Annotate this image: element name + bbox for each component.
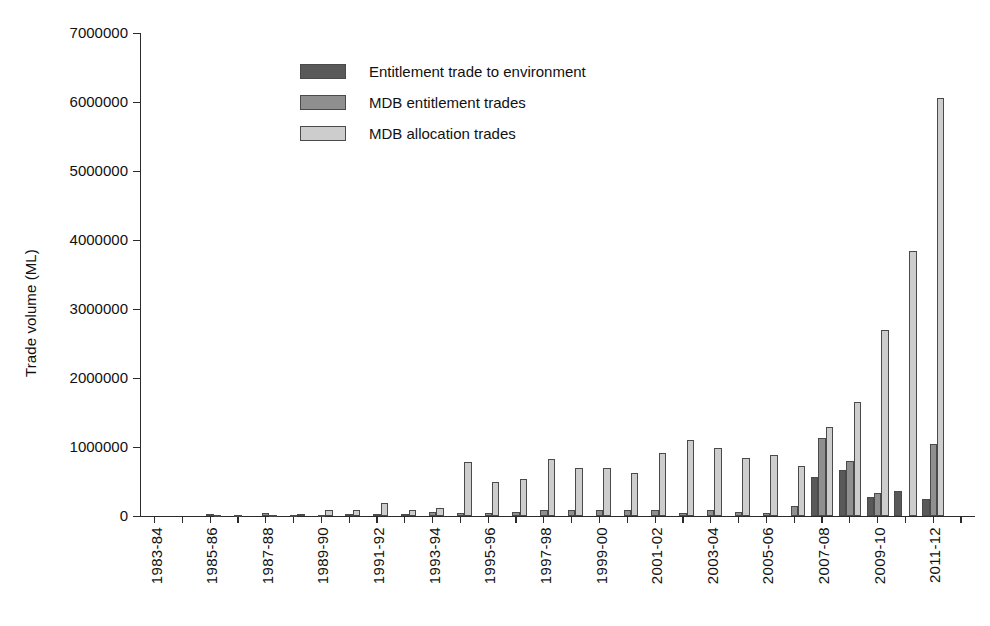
legend-item-label: Entitlement trade to environment (369, 63, 586, 80)
bar (881, 330, 888, 516)
x-axis-tick-label: 1993-94 (426, 527, 440, 584)
chart-legend: Entitlement trade to environmentMDB enti… (300, 56, 586, 149)
bar (937, 98, 944, 516)
bar (575, 468, 582, 516)
bar (811, 477, 818, 516)
x-axis-tick (460, 516, 461, 523)
x-axis-tick-label: 2009-10 (871, 527, 885, 584)
x-axis-tick (349, 516, 350, 523)
legend-item-label: MDB entitlement trades (369, 94, 526, 111)
bar (894, 491, 901, 516)
bar (520, 479, 527, 516)
y-axis-tick (133, 240, 141, 241)
bar (297, 514, 304, 516)
x-axis-tick (877, 516, 878, 523)
bar (373, 514, 380, 516)
x-axis-tick (488, 516, 489, 523)
legend-swatch-icon (300, 95, 346, 110)
bar (596, 510, 603, 516)
x-axis-tick (794, 516, 795, 523)
bar (826, 427, 833, 516)
x-axis-tick-label: 1985-86 (203, 527, 217, 584)
legend-item-label: MDB allocation trades (369, 125, 516, 142)
bar (325, 510, 332, 516)
y-axis-tick-label: 4000000 (8, 231, 128, 248)
x-axis-tick (265, 516, 266, 523)
legend-swatch-icon (300, 126, 346, 141)
x-axis-tick-label: 1989-90 (314, 527, 328, 584)
x-axis-tick-label: 1995-96 (481, 527, 495, 584)
bar (659, 453, 666, 516)
bar (262, 513, 269, 516)
y-axis-tick-label: 0 (8, 507, 128, 524)
bar (457, 513, 464, 516)
x-axis-tick-label: 1983-84 (148, 527, 162, 584)
bar (206, 514, 213, 516)
x-axis-tick (237, 516, 238, 523)
legend-swatch-icon (300, 64, 346, 79)
x-axis-tick-label: 2007-08 (815, 527, 829, 584)
bar (770, 455, 777, 516)
x-axis-tick (655, 516, 656, 523)
legend-item: MDB entitlement trades (300, 87, 586, 118)
bar (687, 440, 694, 516)
x-axis-tick-label: 2001-02 (648, 527, 662, 584)
bar (485, 513, 492, 516)
bar (930, 444, 937, 516)
y-axis-tick (133, 102, 141, 103)
x-axis-tick (321, 516, 322, 523)
x-axis-tick (404, 516, 405, 523)
bar (540, 510, 547, 516)
bar (548, 459, 555, 516)
bar (867, 497, 874, 516)
x-axis-tick (515, 516, 516, 523)
bar (909, 251, 916, 516)
bar (818, 438, 825, 516)
x-axis-tick (543, 516, 544, 523)
x-axis-tick (960, 516, 961, 523)
x-axis-tick-label: 2005-06 (759, 527, 773, 584)
bar (714, 448, 721, 516)
x-axis-tick-label: 2011-12 (926, 527, 940, 583)
bar (839, 470, 846, 516)
bar (763, 513, 770, 516)
y-axis-line (140, 33, 141, 517)
x-axis-tick-label: 2003-04 (704, 527, 718, 584)
x-axis-tick (182, 516, 183, 523)
bar (846, 461, 853, 516)
x-axis-tick (599, 516, 600, 523)
bar (603, 468, 610, 516)
bar (436, 508, 443, 516)
y-axis-tick (133, 447, 141, 448)
x-axis-tick (849, 516, 850, 523)
bar (512, 512, 519, 516)
y-axis-tick-label: 7000000 (8, 24, 128, 41)
x-axis-tick-label: 1999-00 (593, 527, 607, 584)
bar (922, 499, 929, 516)
bar (492, 482, 499, 517)
x-axis-tick (682, 516, 683, 523)
bar (353, 510, 360, 516)
x-axis-tick (933, 516, 934, 523)
bar (381, 503, 388, 516)
y-axis-tick (133, 378, 141, 379)
legend-item: Entitlement trade to environment (300, 56, 586, 87)
bar (735, 512, 742, 516)
y-axis-tick (133, 309, 141, 310)
bar (290, 515, 297, 517)
x-axis-tick (766, 516, 767, 523)
x-axis-tick (154, 516, 155, 523)
x-axis-tick (627, 516, 628, 523)
bar (269, 515, 276, 517)
bar (791, 506, 798, 516)
bar (429, 512, 436, 516)
x-axis-tick (376, 516, 377, 523)
bar (679, 513, 686, 516)
bar (854, 402, 861, 516)
x-axis-tick (821, 516, 822, 523)
x-axis-tick (293, 516, 294, 523)
x-axis-tick (432, 516, 433, 523)
bar (234, 515, 241, 517)
bar (568, 510, 575, 516)
y-axis-tick-label: 5000000 (8, 162, 128, 179)
